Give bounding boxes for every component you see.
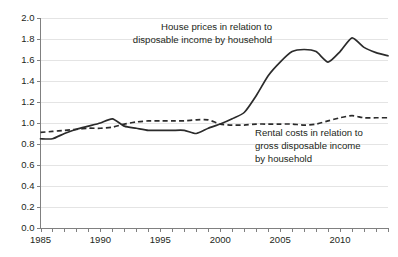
x-axis-tick-label: 2005: [270, 234, 291, 245]
y-axis-tick-label: 1.0: [21, 117, 34, 128]
y-axis-tick-label: 1.6: [21, 54, 34, 65]
chart-container: 0.00.20.40.60.81.01.21.41.61.82.0 198519…: [0, 0, 398, 257]
y-axis-tick-label: 1.2: [21, 96, 34, 107]
x-axis-tick-label: 1990: [90, 234, 111, 245]
x-axis-tick-label: 2000: [210, 234, 231, 245]
line-chart: 0.00.20.40.60.81.01.21.41.61.82.0 198519…: [0, 0, 398, 257]
x-axis-tick-label: 2010: [329, 234, 350, 245]
y-axis-tick-label: 0.2: [21, 201, 34, 212]
rental-costs-annotation-line-2: gross disposable income: [255, 140, 361, 151]
y-axis-tick-label: 2.0: [21, 12, 34, 23]
y-axis-tick-label: 0.0: [21, 222, 34, 233]
y-axis-tick-label: 0.8: [21, 138, 34, 149]
y-axis-tick-label: 1.4: [21, 75, 34, 86]
x-axis-tick-label: 1985: [30, 234, 51, 245]
house-prices-annotation-line-2: disposable income by household: [133, 34, 272, 45]
y-axis-tick-label: 0.4: [21, 180, 34, 191]
y-axis-tick-label: 0.6: [21, 159, 34, 170]
x-axis-tick-label: 1995: [150, 234, 171, 245]
house-prices-annotation-line-1: House prices in relation to: [161, 21, 272, 32]
rental-costs-annotation-line-3: by household: [255, 153, 312, 164]
rental-costs-annotation-line-1: Rental costs in relation to: [255, 127, 363, 138]
y-axis-tick-label: 1.8: [21, 33, 34, 44]
